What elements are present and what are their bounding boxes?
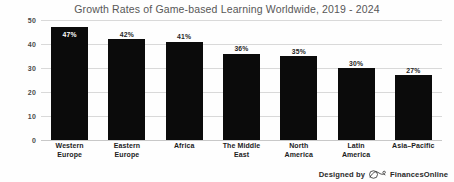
bar[interactable] (280, 56, 317, 140)
bar-value-label: 36% (223, 45, 260, 52)
bar-group[interactable]: 41% (166, 20, 203, 140)
bar[interactable] (51, 27, 88, 140)
bar[interactable] (166, 42, 203, 140)
y-axis: 01020304050 (6, 20, 36, 140)
bar[interactable] (108, 39, 145, 140)
bar-value-label: 41% (166, 33, 203, 40)
y-axis-tick-label: 30 (6, 65, 36, 72)
x-axis: WesternEuropeEasternEuropeAfricaThe Midd… (41, 142, 442, 168)
x-axis-tick-label: LatinAmerica (325, 142, 387, 159)
y-axis-tick-label: 40 (6, 41, 36, 48)
bar-value-label: 35% (280, 48, 317, 55)
x-axis-tick-line: Eastern (96, 142, 158, 151)
bar-value-label: 27% (395, 67, 432, 74)
y-axis-tick-label: 20 (6, 89, 36, 96)
brand-name: FinancesOnline (390, 170, 448, 179)
bar-group[interactable]: 47% (51, 20, 88, 140)
x-axis-tick-line: Africa (153, 142, 215, 151)
bar-group[interactable]: 27% (395, 20, 432, 140)
x-axis-tick-line: Europe (96, 151, 158, 160)
bar-value-label: 42% (108, 31, 145, 38)
x-axis-tick-line: Asia–Pacific (382, 142, 444, 151)
bar[interactable] (395, 75, 432, 140)
x-axis-tick-label: EasternEurope (96, 142, 158, 159)
plot-area: 47%42%41%36%35%30%27% (41, 20, 442, 140)
x-axis-tick-label: WesternEurope (39, 142, 101, 159)
x-axis-tick-line: Western (39, 142, 101, 151)
x-axis-tick-label: Africa (153, 142, 215, 151)
x-axis-tick-line: Europe (39, 151, 101, 160)
designed-by-label: Designed by (319, 170, 365, 179)
x-axis-tick-line: America (268, 151, 330, 160)
x-axis-tick-label: Asia–Pacific (382, 142, 444, 151)
y-axis-tick-label: 50 (6, 17, 36, 24)
bar-value-label: 47% (51, 31, 88, 38)
y-axis-tick-label: 10 (6, 113, 36, 120)
footer-credit: Designed by FinancesOnline (319, 170, 448, 179)
x-axis-tick-line: America (325, 151, 387, 160)
chart-figure: Growth Rates of Game-based Learning Worl… (0, 0, 454, 182)
x-axis-baseline (41, 140, 442, 141)
financesonline-infinity-logo-icon (369, 170, 386, 179)
x-axis-tick-line: East (211, 151, 273, 160)
bar-group[interactable]: 35% (280, 20, 317, 140)
bar-group[interactable]: 36% (223, 20, 260, 140)
chart-title: Growth Rates of Game-based Learning Worl… (0, 3, 454, 15)
bar-group[interactable]: 42% (108, 20, 145, 140)
x-axis-tick-line: North (268, 142, 330, 151)
bar[interactable] (338, 68, 375, 140)
x-axis-tick-label: NorthAmerica (268, 142, 330, 159)
bar-value-label: 30% (338, 60, 375, 67)
bar-group[interactable]: 30% (338, 20, 375, 140)
bar[interactable] (223, 54, 260, 140)
x-axis-tick-line: The Middle (211, 142, 273, 151)
x-axis-tick-label: The MiddleEast (211, 142, 273, 159)
x-axis-tick-line: Latin (325, 142, 387, 151)
y-axis-tick-label: 0 (6, 137, 36, 144)
